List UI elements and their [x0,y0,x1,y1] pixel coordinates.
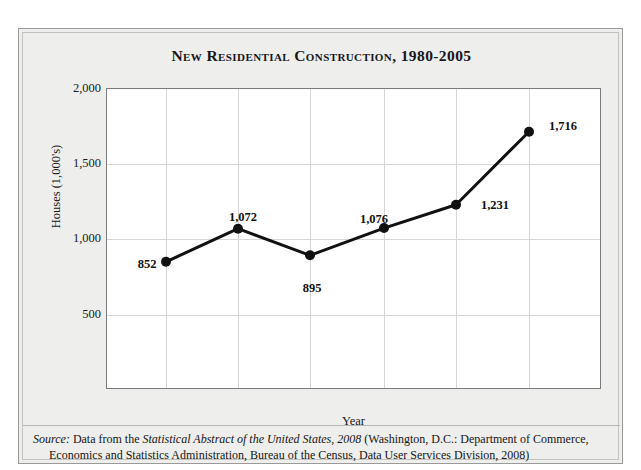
source-work-title: Statistical Abstract of the United State… [143,432,362,446]
data-label-1990: 895 [303,281,322,296]
source-text-before: Data from the [70,432,143,446]
data-label-1985: 1,072 [229,210,257,225]
page-top-cropped-text: · · · · · [0,0,641,16]
data-point-1980 [161,257,171,267]
plot-area: 852 1,072 895 1,076 1,231 1,716 [106,88,601,389]
y-tick-label-1000: 1,000 [41,231,101,246]
source-divider [23,425,620,426]
source-line-2: Economics and Statistics Administration,… [33,447,613,463]
data-point-1990 [305,250,315,260]
source-text-after: (Washington, D.C.: Department of Commerc… [361,432,588,446]
data-point-1985 [233,224,243,234]
data-label-2000: 1,231 [481,198,509,213]
data-label-1995: 1,076 [360,212,388,227]
data-series-line [107,89,602,390]
series-polyline [166,132,529,262]
y-axis-ticks: 2,000 1,500 1,000 500 [39,88,101,389]
data-label-2005: 1,716 [549,119,577,134]
data-point-2000 [451,200,461,210]
x-axis-title: Year [106,414,601,429]
source-note: Source: Data from the Statistical Abstra… [33,431,613,463]
y-tick-label-1500: 1,500 [41,156,101,171]
series-markers [161,127,534,267]
y-tick-label-500: 500 [41,307,101,322]
data-point-2005 [524,127,534,137]
y-tick-label-2000: 2,000 [41,81,101,96]
data-label-1980: 852 [138,257,157,272]
chart-title: New Residential Construction, 1980-2005 [19,47,624,65]
figure-card: New Residential Construction, 1980-2005 … [18,28,623,464]
source-label: Source: [33,432,70,446]
